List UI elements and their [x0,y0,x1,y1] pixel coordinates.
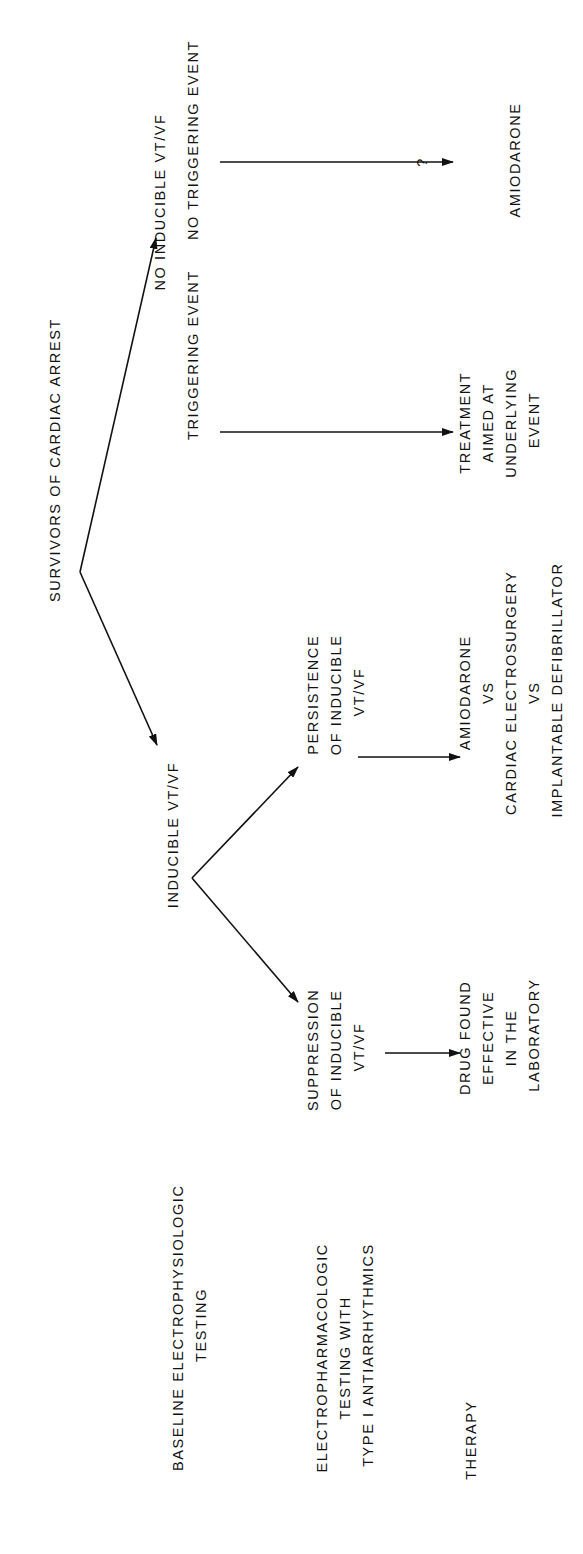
arrow-inducible-to-suppression [192,878,298,1002]
arrow-root-to-inducible [80,572,157,745]
therapy-question-mark: ? [414,157,430,167]
arrow-inducible-to-persistence [192,767,298,878]
arrow-root-to-no-inducible [80,238,156,572]
row-label-baseline-testing: BASELINE ELECTROPHYSIOLOGIC TESTING [170,1179,209,1471]
row-label-electropharmacologic-testing: ELECTROPHARMACOLOGIC TESTING WITH TYPE I… [314,1237,376,1472]
node-no-triggering-event: NO TRIGGERING EVENT [185,40,201,240]
therapy-treatment-aimed-at-underlying-event: TREATMENT AIMED AT UNDERLYING EVENT [457,362,542,478]
node-triggering-event: TRIGGERING EVENT [185,270,201,440]
node-persistence-of-inducible: PERSISTENCE OF INDUCIBLE VT/VF [305,629,367,755]
row-label-therapy: THERAPY [463,1400,479,1480]
root-node-survivors-of-cardiac-arrest: SURVIVORS OF CARDIAC ARREST [47,318,63,602]
therapy-amiodarone: AMIODARONE [507,102,523,217]
therapy-drug-found-effective: DRUG FOUND EFFECTIVE IN THE LABORATORY [457,975,542,1095]
connectors [80,162,460,1053]
therapy-amiodarone-vs-electrosurgery-vs-defibrillator: AMIODARONE VS CARDIAC ELECTROSURGERY VS … [457,562,565,817]
flowchart-canvas: SURVIVORS OF CARDIAC ARREST INDUCIBLE VT… [0,0,583,1554]
node-inducible-vt-vf: INDUCIBLE VT/VF [165,762,181,908]
node-no-inducible-vt-vf: NO INDUCIBLE VT/VF [152,113,168,290]
node-suppression-of-inducible: SUPPRESSION OF INDUCIBLE VT/VF [305,983,367,1111]
